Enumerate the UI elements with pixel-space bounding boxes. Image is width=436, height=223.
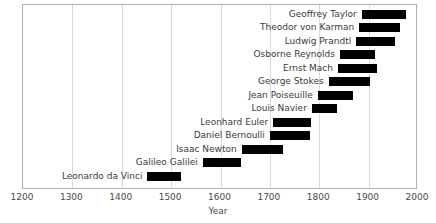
row-label: Leonhard Euler <box>200 115 272 129</box>
lifespan-bar[interactable] <box>312 104 337 113</box>
x-tick-label-1800: 1800 <box>307 192 330 202</box>
lifespan-bar[interactable] <box>147 172 180 181</box>
row-label: Isaac Newton <box>176 142 241 156</box>
row-label: Ernst Mach <box>283 61 337 75</box>
lifespan-bar[interactable] <box>270 131 310 140</box>
lifespan-bar[interactable] <box>356 37 395 46</box>
x-axis-title: Year <box>0 206 436 216</box>
x-tick-label-1200: 1200 <box>11 192 34 202</box>
row-label: Theodor von Karman <box>260 20 358 34</box>
row-label: Ludwig Prandtl <box>285 34 356 48</box>
x-tick-label-2000: 2000 <box>406 192 429 202</box>
x-tick-label-1900: 1900 <box>356 192 379 202</box>
row-label: Geoffrey Taylor <box>289 7 361 21</box>
lifespan-bar[interactable] <box>340 50 375 59</box>
x-tick-label-1700: 1700 <box>257 192 280 202</box>
x-tick-label-1600: 1600 <box>208 192 231 202</box>
timeline-row <box>23 89 416 103</box>
row-label: Galileo Galilei <box>136 155 202 169</box>
x-tick-label-1400: 1400 <box>109 192 132 202</box>
lifespan-bar[interactable] <box>273 118 311 127</box>
row-label: Daniel Bernoulli <box>194 128 269 142</box>
x-tick-label-1500: 1500 <box>159 192 182 202</box>
timeline-row <box>23 35 416 49</box>
row-label: Osborne Reynolds <box>254 47 339 61</box>
row-label: Jean Poiseuille <box>248 88 316 102</box>
lifespan-bar[interactable] <box>338 64 377 73</box>
timeline-row <box>23 48 416 62</box>
lifespan-bar[interactable] <box>362 10 406 19</box>
row-label: Louis Navier <box>251 101 310 115</box>
lifespan-bar[interactable] <box>359 23 399 32</box>
lifespan-bar[interactable] <box>242 145 283 154</box>
row-label: George Stokes <box>258 74 328 88</box>
timeline-row <box>23 75 416 89</box>
lifespan-bar[interactable] <box>329 77 370 86</box>
lifespan-bar[interactable] <box>203 158 242 167</box>
timeline-row <box>23 62 416 76</box>
row-label: Leonardo da Vinci <box>62 169 146 183</box>
x-tick-label-1300: 1300 <box>60 192 83 202</box>
lifespan-bar[interactable] <box>318 91 354 100</box>
timeline-chart-figure: Geoffrey TaylorTheodor von KarmanLudwig … <box>0 0 436 223</box>
